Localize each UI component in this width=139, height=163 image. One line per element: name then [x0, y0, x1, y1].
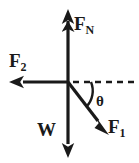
label-weight: W — [37, 120, 56, 139]
force-diagram-figure: FN F2 W F1 θ — [0, 0, 139, 163]
label-force-two: F2 — [9, 51, 27, 70]
label-normal-force-subscript: N — [86, 23, 95, 37]
label-normal-force-base: F — [74, 13, 86, 34]
vector-weight-arrowhead — [62, 143, 74, 158]
diagram-canvas — [0, 0, 139, 163]
theta-arc — [87, 82, 93, 107]
label-force-one-subscript: 1 — [120, 126, 126, 140]
label-force-one-base: F — [108, 116, 120, 137]
label-normal-force: FN — [74, 14, 94, 33]
label-force-two-subscript: 2 — [21, 60, 27, 74]
vector-force-two-arrowhead — [9, 76, 24, 88]
label-weight-base: W — [37, 119, 56, 140]
label-force-two-base: F — [9, 50, 21, 71]
label-angle-theta: θ — [96, 94, 104, 109]
label-force-one: F1 — [108, 117, 126, 136]
